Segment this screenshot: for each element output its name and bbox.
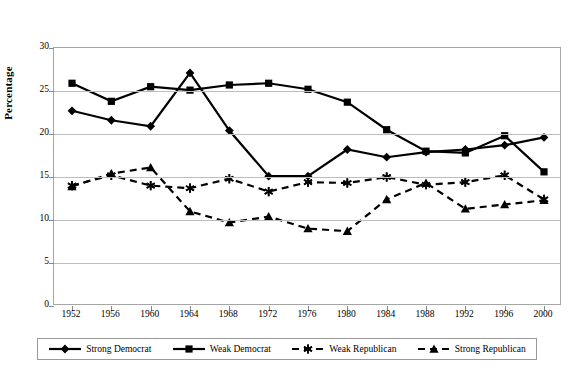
x-axis-tick-label: 1968	[208, 309, 248, 319]
y-axis-tick-label: 0	[23, 299, 49, 309]
legend-item-strong-republican[interactable]: Strong Republican	[417, 342, 526, 356]
y-axis-tick	[49, 134, 54, 135]
x-axis-tick-label: 1964	[169, 309, 209, 319]
legend-swatch-triangle-icon	[417, 342, 451, 356]
legend-label: Strong Democrat	[86, 344, 151, 354]
x-axis-tick-label: 1972	[248, 309, 288, 319]
x-axis-tick-label: 1984	[366, 309, 406, 319]
diamond-marker	[68, 106, 77, 115]
y-axis-tick-label: 10	[23, 213, 49, 223]
gridline	[54, 91, 560, 92]
y-axis-tick	[49, 306, 54, 307]
legend-label: Strong Republican	[455, 344, 526, 354]
square-marker	[185, 345, 192, 352]
y-axis-tick	[49, 177, 54, 178]
y-axis-tick-label: 20	[23, 127, 49, 137]
legend-swatch-square-icon	[172, 342, 206, 356]
series-weak-democrat	[68, 80, 547, 176]
square-marker	[344, 99, 351, 106]
legend-item-weak-democrat[interactable]: Weak Democrat	[172, 342, 271, 356]
y-axis-tick-label: 15	[23, 170, 49, 180]
y-axis-title: Percentage	[2, 38, 14, 148]
square-marker	[108, 98, 115, 105]
plot-area	[53, 47, 561, 305]
triangle-marker	[382, 195, 391, 203]
series-line	[72, 83, 544, 172]
x-axis-tick-label: 1996	[484, 309, 524, 319]
square-marker	[383, 126, 390, 133]
x-axis-tick-label: 1976	[287, 309, 327, 319]
gridline	[54, 134, 560, 135]
y-axis-tick	[49, 48, 54, 49]
y-axis-tick	[49, 91, 54, 92]
y-axis-tick-labels: 051015202530	[19, 47, 49, 305]
square-marker	[422, 148, 429, 155]
legend-label: Weak Democrat	[210, 344, 271, 354]
x-axis-tick-label: 1956	[90, 309, 130, 319]
y-axis-tick-label: 5	[23, 256, 49, 266]
square-marker	[265, 80, 272, 87]
gridline	[54, 220, 560, 221]
x-axis-tick-label: 1988	[405, 309, 445, 319]
square-marker	[147, 83, 154, 90]
x-axis-tick-label: 1960	[130, 309, 170, 319]
x-axis-tick-label: 2000	[523, 309, 563, 319]
x-axis-tick-label: 1980	[326, 309, 366, 319]
square-marker	[462, 149, 469, 156]
y-axis-tick-label: 25	[23, 84, 49, 94]
top-caption-strip	[0, 0, 574, 14]
chart-page: Percentage 051015202530 1952195619601964…	[0, 0, 574, 371]
legend-label: Weak Republican	[329, 344, 396, 354]
legend-item-strong-democrat[interactable]: Strong Democrat	[48, 342, 151, 356]
diamond-marker	[61, 345, 70, 354]
gridline	[54, 263, 560, 264]
x-axis-tick-label: 1992	[444, 309, 484, 319]
y-axis-tick	[49, 220, 54, 221]
chart-legend: Strong DemocratWeak DemocratWeak Republi…	[37, 338, 537, 360]
square-marker	[540, 168, 547, 175]
series-strong-democrat	[68, 69, 549, 181]
gridline	[54, 177, 560, 178]
legend-swatch-asterisk-icon	[291, 342, 325, 356]
diamond-marker	[382, 153, 391, 162]
y-axis-tick	[49, 263, 54, 264]
legend-item-weak-republican[interactable]: Weak Republican	[291, 342, 396, 356]
legend-swatch-diamond-icon	[48, 342, 82, 356]
y-axis-tick-label: 30	[23, 41, 49, 51]
square-marker	[226, 81, 233, 88]
x-axis-tick-label: 1952	[51, 309, 91, 319]
square-marker	[68, 80, 75, 87]
x-axis-tick-labels: 1952195619601964196819721976198019841988…	[53, 309, 561, 325]
diamond-marker	[500, 141, 509, 150]
diamond-marker	[107, 116, 116, 125]
